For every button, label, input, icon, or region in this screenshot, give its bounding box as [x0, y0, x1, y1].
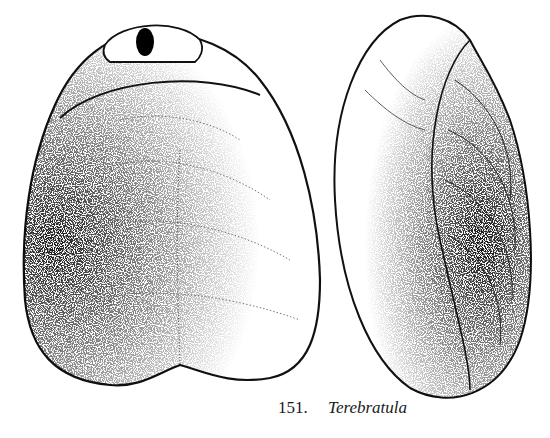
figure-species-name: Terebratula [328, 398, 407, 417]
shell-illustration [0, 0, 550, 438]
figure-caption: 151. Terebratula [278, 398, 407, 418]
right-shell-view [334, 16, 530, 398]
left-shell-view [24, 25, 320, 385]
figure-number: 151. [278, 398, 308, 417]
pedicle-opening [136, 28, 154, 56]
